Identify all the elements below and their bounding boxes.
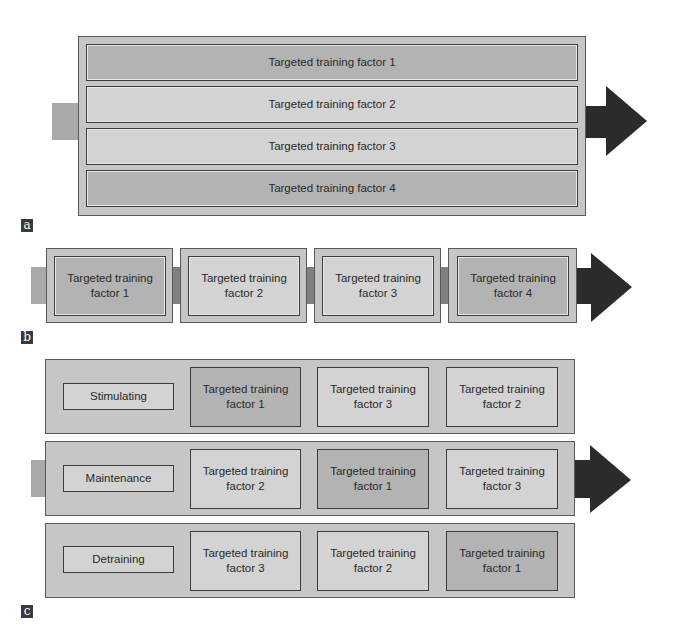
factor-line1: Targeted training xyxy=(459,546,545,561)
bar-label: Targeted training factor 3 xyxy=(268,139,395,154)
factor-line2: factor 1 xyxy=(459,561,545,576)
factor-line2: factor 4 xyxy=(470,286,556,301)
factor-line2: factor 2 xyxy=(459,397,545,412)
bar-label: Targeted training factor 2 xyxy=(268,97,395,112)
factor-line1: Targeted training xyxy=(470,271,556,286)
panel-c-r1-factor-1: Targeted trainingfactor 1 xyxy=(190,367,301,427)
factor-line2: factor 1 xyxy=(330,479,416,494)
panel-c-r2-factor-2: Targeted trainingfactor 1 xyxy=(317,449,429,509)
factor-line1: Targeted training xyxy=(201,271,287,286)
factor-line2: factor 3 xyxy=(330,397,416,412)
panel-b-factor-2: Targeted trainingfactor 2 xyxy=(188,256,300,316)
factor-line1: Targeted training xyxy=(335,271,421,286)
panel-c-input-stub xyxy=(31,460,46,497)
panel-label-b: b xyxy=(21,331,33,344)
arrow-right-icon xyxy=(575,445,632,515)
factor-line2: factor 3 xyxy=(459,479,545,494)
factor-line1: Targeted training xyxy=(459,464,545,479)
panel-b-input-stub xyxy=(31,267,47,304)
panel-a-input-stub xyxy=(52,103,79,140)
factor-line2: factor 2 xyxy=(330,561,416,576)
factor-line1: Targeted training xyxy=(203,546,289,561)
factor-line1: Targeted training xyxy=(330,546,416,561)
panel-b-factor-4: Targeted trainingfactor 4 xyxy=(457,256,569,316)
panel-c-r1-factor-3: Targeted trainingfactor 2 xyxy=(446,367,558,427)
panel-a-bar-4: Targeted training factor 4 xyxy=(86,170,578,207)
factor-line1: Targeted training xyxy=(67,271,153,286)
factor-line2: factor 3 xyxy=(203,561,289,576)
panel-a-bar-1: Targeted training factor 1 xyxy=(86,44,578,81)
factor-line2: factor 1 xyxy=(67,286,153,301)
factor-line2: factor 3 xyxy=(335,286,421,301)
phase-text: Stimulating xyxy=(90,389,147,404)
factor-line1: Targeted training xyxy=(459,382,545,397)
phase-label-maintenance: Maintenance xyxy=(63,465,174,492)
panel-c-r2-factor-3: Targeted trainingfactor 3 xyxy=(446,449,558,509)
panel-label-a: a xyxy=(21,219,33,232)
phase-text: Maintenance xyxy=(86,471,152,486)
panel-a-bar-2: Targeted training factor 2 xyxy=(86,86,578,123)
factor-line1: Targeted training xyxy=(203,464,289,479)
factor-line1: Targeted training xyxy=(203,382,289,397)
factor-line1: Targeted training xyxy=(330,464,416,479)
panel-c-r2-factor-1: Targeted trainingfactor 2 xyxy=(190,449,301,509)
panel-c-r3-factor-1: Targeted trainingfactor 3 xyxy=(190,531,301,591)
panel-c-r3-factor-3: Targeted trainingfactor 1 xyxy=(446,531,558,591)
factor-line2: factor 2 xyxy=(201,286,287,301)
panel-c-r3-factor-2: Targeted trainingfactor 2 xyxy=(317,531,429,591)
phase-label-stimulating: Stimulating xyxy=(63,383,174,410)
arrow-right-icon xyxy=(577,253,633,323)
panel-c-r1-factor-2: Targeted trainingfactor 3 xyxy=(317,367,429,427)
phase-label-detraining: Detraining xyxy=(63,546,174,573)
panel-b-factor-3: Targeted trainingfactor 3 xyxy=(322,256,434,316)
bar-label: Targeted training factor 4 xyxy=(268,181,395,196)
panel-label-c: c xyxy=(21,605,33,618)
panel-b-factor-1: Targeted trainingfactor 1 xyxy=(54,256,166,316)
phase-text: Detraining xyxy=(92,552,144,567)
panel-a-bar-3: Targeted training factor 3 xyxy=(86,128,578,165)
factor-line2: factor 1 xyxy=(203,397,289,412)
factor-line1: Targeted training xyxy=(330,382,416,397)
factor-line2: factor 2 xyxy=(203,479,289,494)
arrow-right-icon xyxy=(586,86,648,158)
bar-label: Targeted training factor 1 xyxy=(268,55,395,70)
